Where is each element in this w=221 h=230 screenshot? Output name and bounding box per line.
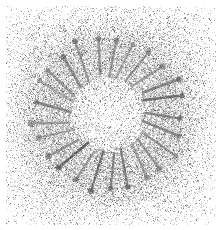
noise-background-canvas [0, 0, 221, 230]
micrograph-figure [0, 0, 221, 230]
